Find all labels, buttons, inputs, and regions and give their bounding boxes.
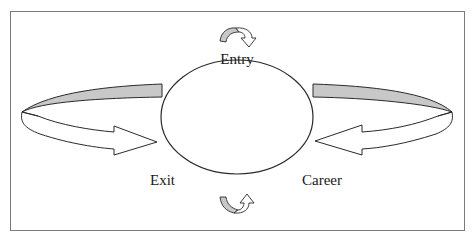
center-ellipse [161, 60, 313, 174]
cycle-diagram: Entry Exit Career [0, 0, 476, 240]
right-wrap-arrow [313, 84, 452, 155]
bottom-curl-arrow-icon [220, 194, 254, 213]
label-exit: Exit [150, 172, 176, 188]
label-career: Career [302, 172, 342, 188]
left-wrap-arrow [22, 84, 162, 155]
top-curl-arrow-icon [220, 28, 256, 47]
label-entry: Entry [220, 51, 254, 67]
